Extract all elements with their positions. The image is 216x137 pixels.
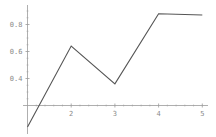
x-tick-label: 5 <box>200 110 204 118</box>
y-tick-label: 0.8 <box>10 21 23 29</box>
y-tick-label: 0.6 <box>10 48 23 56</box>
x-tick-label: 2 <box>69 110 73 118</box>
ticks: 23450.40.60.8 <box>10 11 205 118</box>
x-tick-label: 3 <box>113 110 117 118</box>
x-tick-label: 4 <box>156 110 160 118</box>
line-chart: 23450.40.60.8 <box>0 0 216 137</box>
y-tick-label: 0.4 <box>10 75 23 83</box>
